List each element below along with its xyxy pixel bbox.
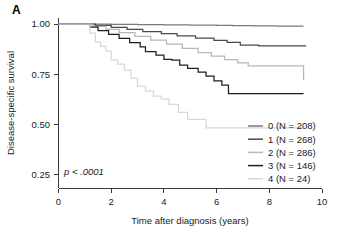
y-axis: 0.250.500.751.00 xyxy=(32,18,59,188)
x-tick-label: 10 xyxy=(317,196,328,207)
legend: 0 (N = 208)1 (N = 268)2 (N = 286)3 (N = … xyxy=(248,120,316,184)
y-tick-label: 0.25 xyxy=(32,169,51,180)
km-curve-group-4 xyxy=(59,24,304,128)
x-tick-label: 2 xyxy=(109,196,114,207)
legend-label-2: 2 (N = 286) xyxy=(268,147,316,158)
y-tick-label: 0.75 xyxy=(32,69,51,80)
survival-figure: A 0.250.500.751.00 0246810 Time after di… xyxy=(0,0,337,231)
y-tick-group: 0.250.500.751.00 xyxy=(32,18,59,179)
survival-curves xyxy=(59,24,307,128)
legend-label-1: 1 (N = 268) xyxy=(268,134,316,145)
y-tick-label: 0.50 xyxy=(32,119,51,130)
x-tick-label: 4 xyxy=(161,196,166,207)
legend-label-3: 3 (N = 146) xyxy=(268,160,316,171)
y-axis-title: Disease-specific survival xyxy=(5,51,16,155)
y-tick-label: 1.00 xyxy=(32,18,51,29)
kaplan-meier-plot: 0.250.500.751.00 0246810 Time after diag… xyxy=(0,0,337,231)
x-axis-title: Time after diagnosis (years) xyxy=(131,215,248,226)
x-axis: 0246810 xyxy=(56,189,327,208)
legend-label-4: 4 (N = 24) xyxy=(268,173,311,184)
legend-label-0: 0 (N = 208) xyxy=(268,120,316,131)
p-value-annotation: p < .0001 xyxy=(63,166,104,177)
x-tick-label: 6 xyxy=(214,196,219,207)
x-tick-label: 0 xyxy=(56,196,61,207)
x-tick-label: 8 xyxy=(267,196,272,207)
x-tick-group: 0246810 xyxy=(56,189,327,208)
